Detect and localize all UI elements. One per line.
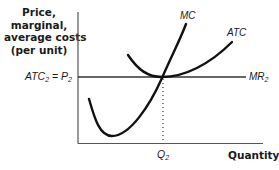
mc-curve xyxy=(89,24,186,136)
plot-area xyxy=(0,0,279,170)
atc-curve xyxy=(128,42,232,77)
